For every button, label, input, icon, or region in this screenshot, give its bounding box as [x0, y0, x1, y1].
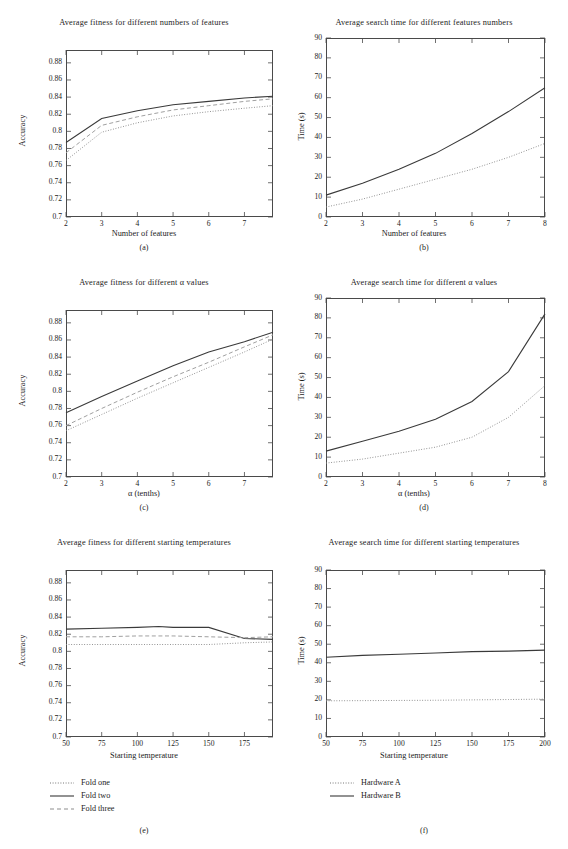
panel-d-xlabel: α (tenths) [278, 489, 550, 498]
x-tick-label: 100 [384, 739, 414, 748]
series-line [326, 314, 545, 451]
x-tick-label: 6 [194, 219, 224, 228]
y-tick-label: 0.88 [24, 577, 62, 586]
x-tick-label: 6 [194, 479, 224, 488]
y-tick-label: 50 [284, 112, 322, 121]
panel-c-title: Average fitness for different α values [8, 278, 280, 287]
panel-b-title: Average search time for different featur… [288, 18, 560, 27]
x-tick-label: 7 [229, 219, 259, 228]
series-line [66, 99, 273, 153]
series-line [66, 627, 273, 640]
y-tick-label: 70 [284, 332, 322, 341]
legend-item[interactable]: Fold three [50, 802, 114, 815]
x-tick-label: 5 [158, 479, 188, 488]
y-tick-label: 0.74 [24, 697, 62, 706]
x-tick-label: 125 [158, 739, 188, 748]
legend-item[interactable]: Hardware A [330, 776, 401, 789]
series-line [326, 88, 545, 195]
legend-item[interactable]: Hardware B [330, 789, 401, 802]
series-line [66, 642, 273, 645]
panel-a-title: Average fitness for different numbers of… [8, 18, 280, 27]
x-tick-label: 50 [311, 739, 341, 748]
y-tick-label: 0.82 [24, 109, 62, 118]
y-tick-label: 60 [284, 352, 322, 361]
x-tick-label: 3 [87, 479, 117, 488]
y-tick-label: 20 [284, 694, 322, 703]
x-tick-label: 4 [122, 479, 152, 488]
legend-item[interactable]: Fold two [50, 789, 114, 802]
series-line [326, 386, 545, 464]
panel-caption-c: (c) [8, 503, 280, 512]
x-tick-label: 100 [122, 739, 152, 748]
y-tick-label: 0.78 [24, 143, 62, 152]
y-tick-label: 0.88 [24, 57, 62, 66]
y-tick-label: 0.86 [24, 334, 62, 343]
y-tick-label: 70 [284, 72, 322, 81]
legend-label: Fold three [81, 804, 114, 813]
panel-caption-d: (d) [288, 503, 560, 512]
y-tick-label: 20 [284, 432, 322, 441]
y-tick-label: 90 [284, 33, 322, 42]
panel-d-chart [326, 298, 545, 477]
y-tick-label: 0.76 [24, 680, 62, 689]
y-tick-label: 30 [284, 676, 322, 685]
y-tick-label: 0.78 [24, 663, 62, 672]
y-tick-label: 0.8 [24, 646, 62, 655]
y-tick-label: 0.72 [24, 454, 62, 463]
panel-c-xlabel: α (tenths) [8, 489, 280, 498]
series-line [326, 699, 545, 701]
x-tick-label: 75 [348, 739, 378, 748]
legend-label: Fold one [81, 778, 110, 787]
x-tick-label: 5 [421, 219, 451, 228]
y-tick-label: 60 [284, 92, 322, 101]
x-tick-label: 5 [421, 479, 451, 488]
figure-container: Average fitness for different numbers of… [0, 0, 568, 849]
y-tick-label: 0.86 [24, 594, 62, 603]
x-tick-label: 7 [494, 219, 524, 228]
x-tick-label: 2 [51, 219, 81, 228]
x-tick-label: 2 [51, 479, 81, 488]
x-tick-label: 7 [229, 479, 259, 488]
y-tick-label: 40 [284, 132, 322, 141]
panel-b-chart [326, 38, 545, 217]
y-tick-label: 0.84 [24, 352, 62, 361]
legend-label: Hardware B [361, 791, 401, 800]
y-tick-label: 0.82 [24, 369, 62, 378]
y-tick-label: 20 [284, 172, 322, 181]
panel-b-xlabel: Number of features [278, 229, 550, 238]
x-tick-label: 150 [194, 739, 224, 748]
series-line [66, 335, 273, 426]
x-tick-label: 2 [311, 219, 341, 228]
y-tick-label: 0.84 [24, 92, 62, 101]
y-tick-label: 0.72 [24, 714, 62, 723]
panel-a-xlabel: Number of features [8, 229, 280, 238]
y-tick-label: 0.76 [24, 160, 62, 169]
panel-f: Average search time for different starti… [288, 538, 560, 763]
panel-a-chart [66, 50, 273, 217]
x-tick-label: 4 [384, 219, 414, 228]
x-tick-label: 5 [158, 219, 188, 228]
x-tick-label: 175 [494, 739, 524, 748]
series-line [66, 106, 273, 161]
y-tick-label: 80 [284, 52, 322, 61]
y-tick-label: 0.82 [24, 629, 62, 638]
y-tick-label: 30 [284, 412, 322, 421]
panel-e-chart [66, 570, 273, 737]
panel-f-ylabel: Time (s) [297, 621, 306, 681]
hardware-legend: Hardware A Hardware B [330, 776, 401, 802]
legend-item[interactable]: Fold one [50, 776, 114, 789]
panel-e-title: Average fitness for different starting t… [8, 538, 280, 547]
x-tick-label: 3 [348, 479, 378, 488]
x-tick-label: 75 [87, 739, 117, 748]
x-tick-label: 7 [494, 479, 524, 488]
panel-d-title: Average search time for different α valu… [288, 278, 560, 287]
panel-a: Average fitness for different numbers of… [8, 18, 280, 243]
panel-c: Average fitness for different α values A… [8, 278, 280, 503]
x-tick-label: 200 [530, 739, 560, 748]
x-tick-label: 8 [530, 219, 560, 228]
panel-caption-b: (b) [288, 243, 560, 252]
x-tick-label: 4 [122, 219, 152, 228]
x-tick-label: 6 [457, 219, 487, 228]
y-tick-label: 40 [284, 392, 322, 401]
panel-d: Average search time for different α valu… [288, 278, 560, 503]
